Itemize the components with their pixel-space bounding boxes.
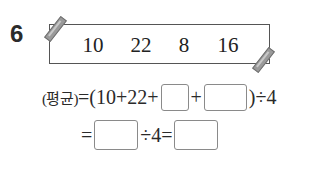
- average-label: (평균): [42, 87, 78, 108]
- paper-value-1: 10: [83, 33, 104, 58]
- question-number: 6: [10, 20, 23, 48]
- equation-text-b: )÷4: [249, 86, 277, 109]
- plus-sign: +: [191, 86, 202, 109]
- equation-line-2: = ÷4=: [81, 120, 219, 150]
- equation-text-a: =(10+22+: [78, 86, 159, 109]
- answer-blank-1[interactable]: [161, 84, 189, 111]
- paper-value-4: 16: [218, 33, 239, 58]
- paper-value-2: 22: [131, 33, 152, 58]
- equals-sign: =: [81, 124, 92, 147]
- answer-blank-3[interactable]: [94, 120, 138, 150]
- equation-line-1: (평균) =(10+22+ + )÷4: [42, 83, 276, 111]
- answer-blank-4[interactable]: [174, 120, 218, 150]
- divide-by-four-equals: ÷4=: [140, 124, 172, 147]
- answer-blank-2[interactable]: [204, 84, 247, 111]
- paper-value-3: 8: [179, 33, 190, 58]
